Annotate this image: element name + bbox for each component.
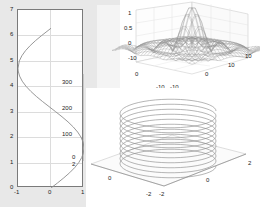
surface-ytick-mid-0: 0 [205,71,208,77]
surface-plot-graphics [120,0,260,95]
surface-ztick-0: 0 [128,40,131,46]
helix-ztick-0: 0 [72,154,75,160]
helix-ytick-corner-neg2: -2 [159,191,164,197]
helix-ztick-200: 200 [62,105,72,111]
helix-ytick-mid-0: 0 [206,177,209,183]
surface-xtick-left-neg10: -10 [128,55,137,61]
helix-ztick-300: 300 [62,79,72,85]
left-plot-ytick-6: 6 [10,31,13,37]
helix-ytick-right-2: 2 [248,160,251,166]
left-plot-ytick-5: 5 [10,57,13,63]
left-plot-ytick-0: 0 [10,184,13,190]
surface-ztick-1: 1 [128,10,131,16]
left-plot-ytick-1: 1 [10,159,13,165]
helix-corner-ytick-2: 2 [72,161,75,167]
surface-plot [120,0,260,95]
helix-plot-graphics [86,88,260,207]
helix-xtick-left-0: 0 [108,175,111,181]
matlab-figure-window: 7 6 5 4 3 2 1 0 -1 0 1 [0,0,260,207]
surface-ytick-right-10: 10 [228,62,235,68]
helix-xtick-corner-neg2: -2 [146,191,151,197]
helix-plot [86,88,260,207]
surface-ytick-top-10: 10 [245,53,252,59]
surface-ztick-05: 0.5 [124,25,132,31]
helix-ztick-100: 100 [62,131,72,137]
left-plot-ytick-2: 2 [10,133,13,139]
left-plot-xtick-1: 1 [81,189,84,195]
left-plot-xtick-neg1: -1 [14,189,19,195]
left-plot-xtick-0: 0 [48,189,51,195]
left-plot-ytick-7: 7 [10,6,13,12]
surface-xtick-mid-0: 0 [135,71,138,77]
left-plot-ytick-3: 3 [10,108,13,114]
left-plot-ytick-4: 4 [10,82,13,88]
